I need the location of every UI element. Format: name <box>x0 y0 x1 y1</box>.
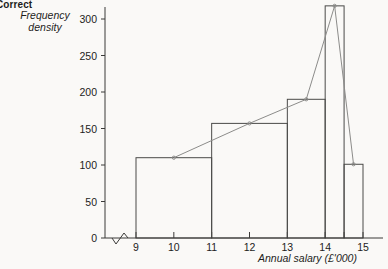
y-tick-label: 100 <box>79 159 97 171</box>
x-tick-label: 11 <box>206 241 217 253</box>
y-tick-label: 300 <box>79 13 97 25</box>
y-tick-label: 50 <box>85 196 97 208</box>
x-tick-label: 10 <box>168 241 180 253</box>
y-tick-label: 200 <box>79 86 97 98</box>
histogram-bar <box>344 164 363 238</box>
x-tick-label: 12 <box>244 241 256 253</box>
y-tick-label: 0 <box>91 232 97 244</box>
chart-screenshot: Correct Frequency density Annual salary … <box>0 0 388 269</box>
histogram-plot: 050100150200250300 9101112131415 <box>0 0 388 269</box>
x-tick-label: 15 <box>357 241 369 253</box>
histogram-bar <box>136 158 212 238</box>
y-tick-label: 150 <box>79 123 97 135</box>
x-tick-label: 14 <box>319 241 331 253</box>
y-axis-ticks: 050100150200250300 <box>79 13 105 244</box>
x-tick-label: 9 <box>133 241 139 253</box>
y-tick-label: 250 <box>79 50 97 62</box>
x-tick-label: 13 <box>281 241 293 253</box>
histogram-bar <box>325 6 344 238</box>
histogram-bar <box>212 123 288 238</box>
x-axis-ticks: 9101112131415 <box>133 232 369 253</box>
histogram-bar <box>287 99 325 238</box>
frequency-polygon-line <box>174 6 354 164</box>
